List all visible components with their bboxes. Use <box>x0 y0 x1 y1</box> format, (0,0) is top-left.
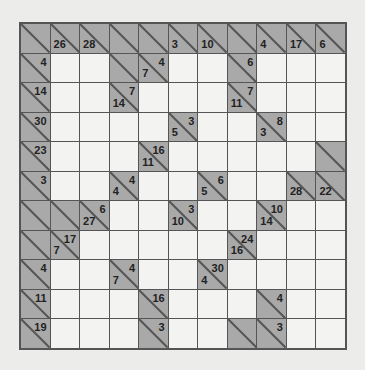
entry-cell[interactable] <box>169 319 198 348</box>
entry-cell[interactable] <box>51 142 80 171</box>
clue-cell: 74 <box>110 260 139 289</box>
entry-cell[interactable] <box>51 260 80 289</box>
entry-cell[interactable] <box>169 54 198 83</box>
entry-cell[interactable] <box>198 319 227 348</box>
entry-cell[interactable] <box>316 260 345 289</box>
across-clue: 7 <box>129 86 135 97</box>
entry-cell[interactable] <box>316 231 345 260</box>
entry-cell[interactable] <box>51 319 80 348</box>
entry-cell[interactable] <box>228 260 257 289</box>
entry-cell[interactable] <box>110 142 139 171</box>
entry-cell[interactable] <box>228 113 257 142</box>
entry-cell[interactable] <box>110 201 139 230</box>
entry-cell[interactable] <box>287 201 316 230</box>
entry-cell[interactable] <box>287 142 316 171</box>
entry-cell[interactable] <box>316 319 345 348</box>
entry-cell[interactable] <box>80 54 109 83</box>
across-clue: 3 <box>277 322 283 333</box>
entry-cell[interactable] <box>51 290 80 319</box>
entry-cell[interactable] <box>198 54 227 83</box>
kakuro-board: 2628310417647461414711730533823111634456… <box>19 22 347 350</box>
entry-cell[interactable] <box>169 290 198 319</box>
clue-cell: 430 <box>198 260 227 289</box>
entry-cell[interactable] <box>287 83 316 112</box>
across-clue: 19 <box>34 322 46 333</box>
clue-cell: 28 <box>287 172 316 201</box>
clue-cell: 17 <box>287 24 316 53</box>
clue-cell <box>139 24 168 53</box>
entry-cell[interactable] <box>198 83 227 112</box>
entry-cell[interactable] <box>287 319 316 348</box>
entry-cell[interactable] <box>287 54 316 83</box>
entry-cell[interactable] <box>257 260 286 289</box>
entry-cell[interactable] <box>110 113 139 142</box>
entry-cell[interactable] <box>80 83 109 112</box>
entry-cell[interactable] <box>169 172 198 201</box>
entry-cell[interactable] <box>316 290 345 319</box>
entry-cell[interactable] <box>110 319 139 348</box>
down-clue: 4 <box>113 186 119 197</box>
entry-cell[interactable] <box>169 83 198 112</box>
entry-cell[interactable] <box>228 142 257 171</box>
entry-cell[interactable] <box>287 231 316 260</box>
clue-cell: 56 <box>198 172 227 201</box>
entry-cell[interactable] <box>51 83 80 112</box>
across-clue: 24 <box>241 234 253 245</box>
entry-cell[interactable] <box>198 142 227 171</box>
entry-cell[interactable] <box>228 172 257 201</box>
entry-cell[interactable] <box>51 54 80 83</box>
diagonal-divider-icon <box>21 201 50 230</box>
entry-cell[interactable] <box>110 231 139 260</box>
entry-cell[interactable] <box>169 260 198 289</box>
entry-cell[interactable] <box>110 290 139 319</box>
entry-cell[interactable] <box>287 290 316 319</box>
diagonal-divider-icon <box>110 54 139 83</box>
entry-cell[interactable] <box>316 113 345 142</box>
entry-cell[interactable] <box>139 172 168 201</box>
entry-cell[interactable] <box>228 201 257 230</box>
entry-cell[interactable] <box>139 113 168 142</box>
entry-cell[interactable] <box>51 113 80 142</box>
across-clue: 23 <box>34 145 46 156</box>
entry-cell[interactable] <box>80 319 109 348</box>
down-clue: 4 <box>260 39 266 50</box>
entry-cell[interactable] <box>316 201 345 230</box>
down-clue: 14 <box>113 98 125 109</box>
down-clue: 10 <box>172 216 184 227</box>
entry-cell[interactable] <box>257 54 286 83</box>
clue-cell: 4 <box>21 54 50 83</box>
entry-cell[interactable] <box>316 54 345 83</box>
entry-cell[interactable] <box>198 201 227 230</box>
entry-cell[interactable] <box>198 231 227 260</box>
entry-cell[interactable] <box>169 231 198 260</box>
entry-cell[interactable] <box>287 260 316 289</box>
clue-cell: 6 <box>316 24 345 53</box>
down-clue: 28 <box>290 186 302 197</box>
entry-cell[interactable] <box>228 290 257 319</box>
entry-cell[interactable] <box>257 83 286 112</box>
entry-cell[interactable] <box>139 83 168 112</box>
entry-cell[interactable] <box>139 260 168 289</box>
down-clue: 3 <box>172 39 178 50</box>
entry-cell[interactable] <box>80 290 109 319</box>
entry-cell[interactable] <box>316 83 345 112</box>
entry-cell[interactable] <box>257 142 286 171</box>
entry-cell[interactable] <box>80 260 109 289</box>
entry-cell[interactable] <box>139 231 168 260</box>
entry-cell[interactable] <box>80 231 109 260</box>
diagonal-divider-icon <box>139 24 168 53</box>
entry-cell[interactable] <box>287 113 316 142</box>
entry-cell[interactable] <box>198 290 227 319</box>
entry-cell[interactable] <box>139 201 168 230</box>
across-clue: 17 <box>64 234 76 245</box>
entry-cell[interactable] <box>51 172 80 201</box>
entry-cell[interactable] <box>80 142 109 171</box>
clue-cell: 38 <box>257 113 286 142</box>
entry-cell[interactable] <box>198 113 227 142</box>
entry-cell[interactable] <box>80 113 109 142</box>
entry-cell[interactable] <box>169 142 198 171</box>
entry-cell[interactable] <box>257 231 286 260</box>
clue-cell: 4 <box>21 260 50 289</box>
entry-cell[interactable] <box>257 172 286 201</box>
entry-cell[interactable] <box>80 172 109 201</box>
